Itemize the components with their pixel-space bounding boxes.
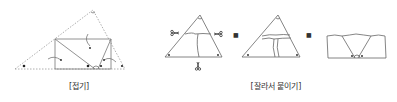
separated-dots (247, 54, 298, 56)
cut-line-horizontal (185, 33, 211, 34)
rearranged-middle-top (342, 34, 371, 36)
separated-dot-left (247, 54, 249, 56)
apex-angle-mark (91, 12, 95, 13)
separated-apex-mark (276, 18, 280, 19)
cut-apex-mark (198, 18, 202, 19)
cut-dots (168, 54, 219, 56)
fold-dot-left-vertex (23, 65, 26, 68)
separated-gap-top (262, 35, 290, 37)
arrow-icon-1: ■ (233, 31, 239, 38)
scissors-icon-bottom (195, 62, 200, 70)
cut-line-vertical (197, 34, 199, 57)
fold-diagonal-right (98, 39, 111, 69)
separated-vertical-right (277, 39, 279, 57)
rearranged-right-piece (358, 35, 386, 58)
scissors-icon-left (171, 30, 179, 35)
cut-dot-right (217, 54, 219, 56)
fold-diagonal-left (55, 39, 95, 69)
fold-arrowhead-left (60, 59, 62, 61)
rearranged-figure (327, 34, 386, 58)
separated-outline (242, 15, 300, 57)
caption-cut-paste: [잘라서 붙이기] (251, 80, 302, 91)
caption-fold: [접기] (69, 80, 89, 91)
scissors-icons (171, 30, 222, 70)
separated-triangle (242, 15, 300, 57)
fold-arrowhead-top (89, 47, 91, 49)
fold-dot-right-vertex (121, 65, 123, 67)
rearranged-dot-right (361, 55, 363, 57)
fold-arrowhead-right (103, 59, 105, 61)
fold-arrow-top (86, 34, 90, 46)
rearranged-left-piece (327, 35, 355, 58)
fold-figure (15, 10, 125, 69)
separated-vertical-left (273, 39, 275, 57)
cut-triangle (165, 15, 222, 57)
cut-dot-left (168, 54, 170, 56)
fold-arrow-left (48, 57, 61, 60)
separated-dot-right (296, 54, 298, 56)
fold-dots (23, 47, 123, 67)
scissors-icon-right (214, 31, 222, 36)
arrow-icon-2: ■ (306, 31, 312, 38)
rearranged-dot-left (351, 55, 353, 57)
separated-gap-bottom (262, 38, 291, 39)
fold-original-outline (15, 10, 125, 69)
fold-dot-meet-right (100, 65, 102, 67)
fold-dot-meet-left (87, 65, 90, 68)
diagram-canvas: ■ ■ (0, 0, 397, 102)
cut-triangle-outline (165, 15, 222, 57)
fold-arrow-right (104, 58, 116, 62)
